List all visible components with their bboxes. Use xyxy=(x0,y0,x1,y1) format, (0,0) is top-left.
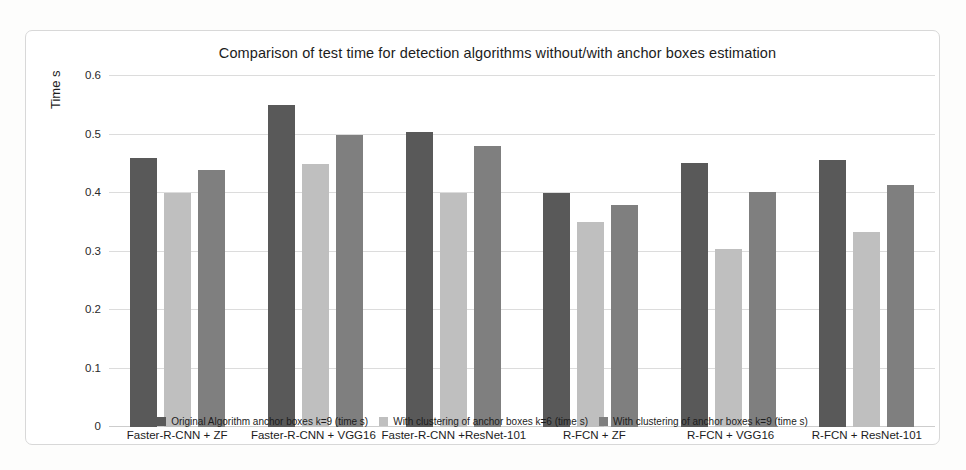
y-axis-tick-label: 0.1 xyxy=(85,362,101,374)
legend-item[interactable]: Original Algorithm anchor boxes k=9 (tim… xyxy=(157,416,368,427)
legend-item[interactable]: With clustering of anchor boxes k=6 (tim… xyxy=(379,416,588,427)
bar xyxy=(749,192,776,427)
bars-layer xyxy=(109,76,935,427)
bar xyxy=(198,170,225,427)
y-axis-tick-label: 0.3 xyxy=(85,245,101,257)
bar xyxy=(164,193,191,427)
x-axis-category-label: Faster-R-CNN +ResNet-101 xyxy=(382,429,527,441)
y-axis-tick-label: 0.2 xyxy=(85,303,101,315)
bar xyxy=(440,193,467,427)
bar xyxy=(406,132,433,427)
bar xyxy=(611,205,638,427)
legend-label: With clustering of anchor boxes k=6 (tim… xyxy=(393,416,588,427)
category-axis: Faster-R-CNN + ZFFaster-R-CNN + VGG16Fas… xyxy=(109,429,935,441)
x-axis-category-label: R-FCN + VGG16 xyxy=(663,429,799,441)
bar xyxy=(819,160,846,427)
bar-group xyxy=(109,76,247,427)
bar xyxy=(853,232,880,427)
y-axis-tick-label: 0.6 xyxy=(85,69,101,81)
bar xyxy=(302,164,329,427)
x-axis-category-label: Faster-R-CNN + VGG16 xyxy=(245,429,381,441)
legend-label: Original Algorithm anchor boxes k=9 (tim… xyxy=(171,416,368,427)
bar xyxy=(543,193,570,427)
y-axis-tick-label: 0.5 xyxy=(85,128,101,140)
legend-swatch-icon xyxy=(157,417,166,426)
plot-area: 00.10.20.30.40.50.6 xyxy=(109,76,935,427)
bar-group xyxy=(384,76,522,427)
y-axis-title: Time s xyxy=(48,70,63,109)
bar-group xyxy=(660,76,798,427)
bar xyxy=(577,222,604,427)
legend-item[interactable]: With clustering of anchor boxes k=9 (tim… xyxy=(599,416,808,427)
y-axis-tick-label: 0.4 xyxy=(85,186,101,198)
bar xyxy=(336,135,363,428)
bar xyxy=(130,158,157,427)
x-axis-category-label: R-FCN + ZF xyxy=(526,429,662,441)
bar-group xyxy=(247,76,385,427)
legend-label: With clustering of anchor boxes k=9 (tim… xyxy=(613,416,808,427)
bar-group xyxy=(522,76,660,427)
x-axis-category-label: R-FCN + ResNet-101 xyxy=(799,429,935,441)
bar xyxy=(681,163,708,427)
bar xyxy=(474,146,501,427)
bar-group xyxy=(797,76,935,427)
chart-legend: Original Algorithm anchor boxes k=9 (tim… xyxy=(26,416,939,427)
legend-swatch-icon xyxy=(379,417,388,426)
bar xyxy=(268,105,295,427)
bar xyxy=(715,249,742,427)
chart-title: Comparison of test time for detection al… xyxy=(26,45,939,61)
chart-frame: Comparison of test time for detection al… xyxy=(25,30,940,445)
legend-swatch-icon xyxy=(599,417,608,426)
x-axis-category-label: Faster-R-CNN + ZF xyxy=(109,429,245,441)
bar xyxy=(887,185,914,427)
